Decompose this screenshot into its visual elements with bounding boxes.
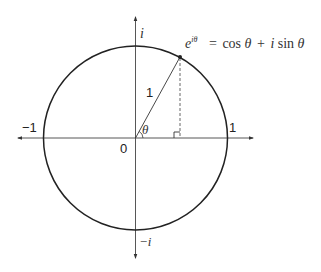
label-origin: 0: [120, 141, 127, 156]
label-real-neg: −1: [22, 120, 37, 135]
right-angle-marker: [174, 132, 180, 138]
formula-exponent: iθ: [191, 35, 197, 44]
label-angle: θ: [142, 122, 149, 137]
svg-text:= cos θ +: = cos θ + i sin θ: [209, 36, 305, 51]
unit-circle-diagram: i −i 1 −1 0 1 θ eiθ = cos θ + i sin θ: [0, 0, 321, 272]
label-radius: 1: [146, 85, 153, 100]
label-real-pos: 1: [229, 120, 236, 135]
label-imag-neg: −i: [139, 234, 152, 249]
label-imag-pos: i: [140, 26, 144, 41]
euler-formula: eiθ = cos θ + i sin θ: [185, 35, 305, 51]
svg-text:eiθ: eiθ: [185, 35, 197, 51]
point-on-circle: [178, 55, 182, 59]
